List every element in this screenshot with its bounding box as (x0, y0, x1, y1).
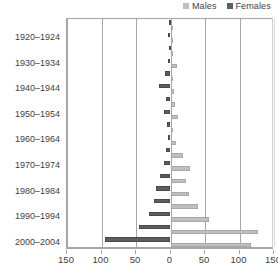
bar-row (67, 108, 272, 121)
bar-females (168, 33, 170, 37)
bar-males (171, 243, 251, 247)
bar-males (171, 51, 173, 55)
x-axis-tick-label: 50 (199, 254, 210, 265)
y-axis-tick-label: 1960–1964 (15, 134, 60, 144)
x-axis-tick-label: 150 (58, 254, 74, 265)
plot-area (66, 18, 273, 248)
bar-females (169, 46, 171, 50)
x-axis-labels: 15010050050100150 (66, 250, 273, 266)
bar-females (169, 20, 171, 24)
bar-females (159, 84, 170, 88)
bar-males (171, 102, 175, 106)
bar-row (67, 70, 272, 83)
bar-row (67, 121, 272, 134)
y-axis-tick-label: 1930–1934 (15, 58, 60, 68)
bar-females (166, 148, 170, 152)
x-axis-tick-label: 150 (265, 254, 278, 265)
bar-females (168, 59, 171, 63)
bar-females (139, 225, 171, 229)
chart-legend: Males Females (183, 1, 271, 11)
bar-row (67, 147, 272, 160)
bar-row (67, 83, 272, 96)
y-axis-tick-label: 1980–1984 (15, 186, 60, 196)
bar-males (171, 179, 187, 183)
bar-males (171, 217, 210, 221)
bar-row (67, 32, 272, 45)
y-axis-tick-label: 1990–1994 (15, 211, 60, 221)
bar-rows (67, 19, 272, 247)
bar-males (171, 128, 174, 132)
x-axis-tick-label: 100 (93, 254, 109, 265)
x-axis-tick-label: 100 (231, 254, 247, 265)
bar-males (171, 38, 173, 42)
bar-row (67, 185, 272, 198)
bar-females (105, 237, 171, 241)
bar-males (171, 115, 179, 119)
bar-females (160, 174, 170, 178)
y-axis-tick-label: 1940–1944 (15, 83, 60, 93)
bar-males (171, 26, 173, 30)
bar-males (171, 77, 174, 81)
bar-males (171, 153, 183, 157)
bar-females (164, 161, 171, 165)
y-axis-tick-label: 1970–1974 (15, 160, 60, 170)
bar-row (67, 160, 272, 173)
bar-row (67, 134, 272, 147)
legend-item-males: Males (183, 1, 217, 11)
bar-females (168, 135, 170, 139)
bar-males (171, 89, 174, 93)
bar-males (171, 204, 199, 208)
bar-row (67, 96, 272, 109)
bar-males (171, 64, 177, 68)
bar-males (171, 192, 190, 196)
legend-swatch-icon-males (183, 3, 189, 9)
bar-row (67, 45, 272, 58)
bar-females (164, 110, 170, 114)
bar-females (156, 186, 170, 190)
bar-males (171, 141, 177, 145)
x-axis-tick-label: 0 (167, 254, 172, 265)
x-axis-tick-label: 50 (130, 254, 141, 265)
bar-females (149, 212, 170, 216)
y-axis-tick-label: 1920–1924 (15, 32, 60, 42)
bar-row (67, 172, 272, 185)
bar-row (67, 198, 272, 211)
bar-females (165, 71, 171, 75)
legend-label-males: Males (192, 1, 217, 11)
x-axis-line (66, 248, 273, 249)
population-pyramid-chart: Males Females 1920–19241930–19341940–194… (0, 0, 278, 273)
legend-swatch-icon-females (227, 3, 233, 9)
bar-females (166, 97, 171, 101)
y-axis-labels: 1920–19241930–19341940–19441950–19541960… (0, 18, 64, 248)
bar-row (67, 19, 272, 32)
y-axis-tick-label: 2000–2004 (15, 237, 60, 247)
bar-row (67, 211, 272, 224)
legend-item-females: Females (227, 1, 271, 11)
legend-label-females: Females (236, 1, 271, 11)
bar-females (167, 122, 170, 126)
bar-males (171, 230, 259, 234)
y-axis-tick-label: 1950–1954 (15, 109, 60, 119)
gridline-150 (274, 19, 275, 247)
bar-males (171, 166, 190, 170)
bar-row (67, 57, 272, 70)
bar-females (154, 199, 171, 203)
bar-row (67, 223, 272, 236)
